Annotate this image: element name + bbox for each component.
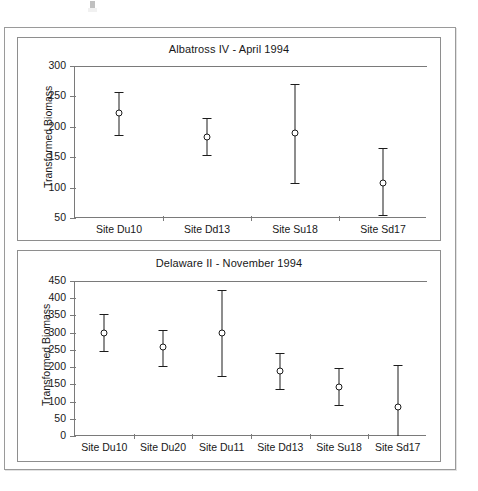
y-tick: 250: [70, 350, 76, 351]
data-point-marker: [204, 133, 211, 140]
x-axis-category-label: Site Sd17: [360, 223, 406, 235]
y-tick: 150: [70, 384, 76, 385]
figure-frame: Albatross IV - April 1994 Transformed Bi…: [4, 27, 456, 470]
x-tick: [251, 216, 252, 221]
chart-title-albatross: Albatross IV - April 1994: [18, 43, 440, 55]
error-bar-cap-upper: [159, 330, 168, 331]
error-bar-cap-lower: [159, 366, 168, 367]
y-tick-label: 50: [54, 211, 66, 223]
error-bar-cap-upper: [115, 92, 124, 93]
x-axis-category-label: Site Du20: [140, 441, 186, 453]
y-tick: 200: [70, 367, 76, 368]
y-tick: 100: [70, 188, 76, 189]
error-bar-cap-lower: [291, 183, 300, 184]
scan-artifact: [90, 1, 95, 8]
data-point-marker: [218, 330, 225, 337]
data-point-marker: [336, 383, 343, 390]
x-tick: [310, 434, 311, 439]
y-tick-label: 100: [48, 181, 66, 193]
y-tick: 50: [70, 419, 76, 420]
y-tick-label: 200: [48, 360, 66, 372]
data-point-marker: [394, 404, 401, 411]
y-tick-label: 0: [60, 429, 66, 441]
data-point-marker: [277, 368, 284, 375]
error-bar-cap-upper: [276, 353, 285, 354]
error-bar-cap-upper: [291, 84, 300, 85]
y-tick-label: 50: [54, 412, 66, 424]
y-tick: 450: [70, 281, 76, 282]
data-point-marker: [160, 344, 167, 351]
x-axis-category-label: Site Du10: [81, 441, 127, 453]
error-bar-cap-lower: [100, 351, 109, 352]
x-tick: [163, 216, 164, 221]
y-tick: 50: [70, 218, 76, 219]
data-point-marker: [380, 179, 387, 186]
plot-top-border: [74, 281, 427, 282]
plot-area-delaware: 050100150200250300350400450Site Du10Site…: [74, 281, 426, 436]
error-bar-cap-upper: [393, 365, 402, 366]
x-tick: [368, 434, 369, 439]
plot-area-albatross: 50100150200250300Site Du10Site Dd13Site …: [74, 66, 426, 218]
y-tick: 100: [70, 402, 76, 403]
y-tick-label: 450: [48, 274, 66, 286]
y-tick: 300: [70, 66, 76, 67]
data-point-marker: [101, 329, 108, 336]
y-tick-label: 400: [48, 291, 66, 303]
x-axis-category-label: Site Dd13: [184, 223, 230, 235]
error-bar-cap-lower: [217, 376, 226, 377]
error-bar-cap-upper: [100, 314, 109, 315]
error-bar-cap-lower: [335, 405, 344, 406]
chart-panel-delaware: Delaware II - November 1994 Transformed …: [17, 250, 441, 462]
x-tick: [251, 434, 252, 439]
y-tick: 350: [70, 315, 76, 316]
error-bar-cap-upper: [217, 290, 226, 291]
y-tick: 250: [70, 96, 76, 97]
y-tick: 0: [70, 436, 76, 437]
y-tick-label: 300: [48, 326, 66, 338]
error-bar-cap-upper: [335, 368, 344, 369]
y-tick-label: 300: [48, 59, 66, 71]
x-tick: [134, 434, 135, 439]
y-tick: 150: [70, 157, 76, 158]
error-bar: [397, 365, 398, 436]
y-tick-label: 150: [48, 150, 66, 162]
y-tick-label: 250: [48, 89, 66, 101]
y-tick: 200: [70, 127, 76, 128]
error-bar-cap-lower: [115, 135, 124, 136]
y-tick-label: 150: [48, 377, 66, 389]
x-axis-category-label: Site Su18: [272, 223, 318, 235]
x-axis-category-label: Site Du10: [96, 223, 142, 235]
x-axis-category-label: Site Sd17: [375, 441, 421, 453]
y-tick-label: 250: [48, 343, 66, 355]
x-tick: [339, 216, 340, 221]
error-bar-cap-upper: [203, 118, 212, 119]
error-bar-cap-lower: [379, 215, 388, 216]
error-bar-cap-upper: [379, 148, 388, 149]
x-axis-category-label: Site Su18: [316, 441, 362, 453]
y-tick: 300: [70, 333, 76, 334]
x-axis-category-label: Site Du11: [199, 441, 244, 453]
x-tick: [192, 434, 193, 439]
plot-top-border: [74, 66, 427, 67]
x-axis-category-label: Site Dd13: [257, 441, 303, 453]
y-tick-label: 200: [48, 120, 66, 132]
y-tick-label: 350: [48, 308, 66, 320]
y-tick: 400: [70, 298, 76, 299]
chart-title-delaware: Delaware II - November 1994: [18, 257, 440, 269]
y-tick-label: 100: [48, 395, 66, 407]
chart-panel-albatross: Albatross IV - April 1994 Transformed Bi…: [17, 37, 441, 241]
data-point-marker: [292, 130, 299, 137]
error-bar-cap-lower: [203, 155, 212, 156]
data-point-marker: [116, 110, 123, 117]
error-bar-cap-lower: [276, 389, 285, 390]
